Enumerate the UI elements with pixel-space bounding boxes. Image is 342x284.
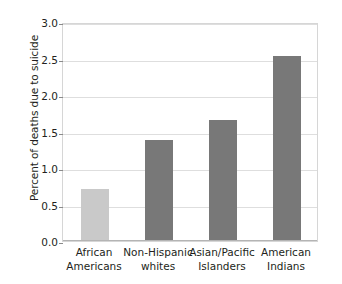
bar bbox=[81, 189, 109, 241]
y-axis-tick-label: 3.0 bbox=[32, 18, 58, 29]
bar-chart: Percent of deaths due to suicide 3.02.52… bbox=[0, 0, 342, 284]
x-axis-line bbox=[63, 240, 317, 241]
bars-group bbox=[63, 24, 317, 241]
x-axis-tick-label: Asian/PacificIslanders bbox=[185, 246, 259, 273]
x-axis-tick-label: AmericanIndians bbox=[249, 246, 323, 273]
y-axis-tick-label: 0.5 bbox=[32, 200, 58, 211]
x-axis-tick-label: AfricanAmericans bbox=[57, 246, 131, 273]
x-axis-tick-label-line: Non-Hispanic bbox=[121, 246, 195, 260]
x-axis-tick-label: Non-Hispanicwhites bbox=[121, 246, 195, 273]
y-axis-tick-label: 2.5 bbox=[32, 54, 58, 65]
y-axis-tick-label: 2.0 bbox=[32, 91, 58, 102]
x-axis-tick-label-line: African bbox=[57, 246, 131, 260]
bar bbox=[145, 140, 173, 241]
x-axis-tick-label-line: American bbox=[249, 246, 323, 260]
x-axis-tick-label-line: Asian/Pacific bbox=[185, 246, 259, 260]
y-axis-tick-mark bbox=[59, 243, 63, 244]
x-axis-tick-label-line: Americans bbox=[57, 260, 131, 274]
bar bbox=[273, 56, 301, 241]
x-axis-tick-labels: AfricanAmericansNon-HispanicwhitesAsian/… bbox=[62, 246, 318, 282]
y-axis-tick-label: 0.0 bbox=[32, 237, 58, 248]
x-axis-tick-label-line: whites bbox=[121, 260, 195, 274]
x-axis-tick-label-line: Indians bbox=[249, 260, 323, 274]
y-axis-tick-label: 1.5 bbox=[32, 127, 58, 138]
y-axis-tick-labels: 3.02.52.01.51.00.50.0 bbox=[28, 0, 58, 284]
plot-area bbox=[62, 23, 318, 242]
y-axis-tick-label: 1.0 bbox=[32, 164, 58, 175]
bar bbox=[209, 120, 237, 241]
x-axis-tick-label-line: Islanders bbox=[185, 260, 259, 274]
